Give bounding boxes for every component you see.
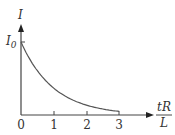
x-tick-label-1: 1 <box>50 118 58 132</box>
x-tick-label-3: 3 <box>115 118 123 132</box>
x-axis-arrow-icon <box>146 112 154 118</box>
y-marker-label: I0 <box>5 34 17 50</box>
decay-curve <box>21 42 119 111</box>
x-axis-label-denominator: L <box>159 116 168 130</box>
chart: I I0 0 1 2 3 tR L <box>0 0 175 135</box>
x-tick-label-2: 2 <box>83 118 91 132</box>
x-tick-label-0: 0 <box>17 118 25 132</box>
y-axis-label: I <box>17 8 23 22</box>
y-axis-arrow-icon <box>18 24 24 32</box>
x-axis-label-numerator: tR <box>157 100 171 114</box>
